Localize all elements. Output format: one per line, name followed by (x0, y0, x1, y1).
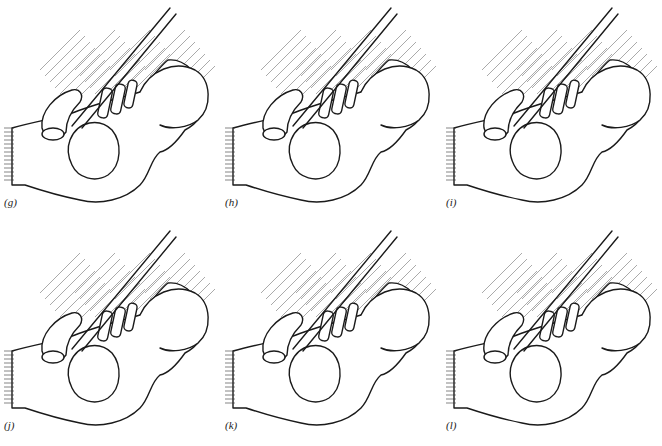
hatch-line (85, 42, 125, 82)
pelvis-illustration (221, 0, 441, 223)
hatch-line (110, 253, 150, 293)
hatch-line (517, 30, 557, 70)
anatomy-panel-i: (i) (442, 0, 662, 223)
pelvis-illustration (442, 0, 662, 223)
hatch-line (266, 36, 306, 76)
hatch-line (522, 259, 562, 299)
hatch-line (527, 265, 567, 305)
hatch-line (522, 36, 562, 76)
hatch-line (502, 277, 542, 317)
hatch-line (266, 259, 306, 299)
obturator-foramen (68, 123, 119, 179)
hatch-line (527, 42, 567, 82)
panel-label: (k) (225, 419, 237, 431)
hatch-line (552, 253, 592, 293)
pelvis-illustration (0, 223, 220, 446)
hatch-line (90, 48, 130, 88)
obturator-foramen (510, 346, 561, 402)
obturator-foramen (68, 346, 119, 402)
hatch-line (85, 265, 125, 305)
panel-label: (h) (225, 196, 238, 208)
hatch-line (517, 253, 557, 293)
cord-end (484, 351, 506, 363)
hatch-line (497, 271, 537, 311)
pelvis-illustration (442, 223, 662, 446)
hatch-line (331, 253, 371, 293)
pelvis-illustration (0, 0, 220, 223)
cord-end (263, 351, 285, 363)
panel-label: (j) (4, 419, 14, 431)
hatch-line (55, 271, 95, 311)
anatomy-panel-g: (g) (0, 0, 220, 223)
hatch-line (311, 271, 351, 311)
hatch-line (271, 265, 311, 305)
hatch-line (50, 265, 90, 305)
hatch-line (492, 42, 532, 82)
hatch-line (276, 48, 316, 88)
hatch-line (281, 54, 321, 94)
hatch-line (261, 253, 301, 293)
hatch-line (552, 30, 592, 70)
hatch-line (482, 253, 522, 293)
hatch-line (532, 271, 572, 311)
obturator-foramen (510, 123, 561, 179)
hatch-line (296, 253, 336, 293)
pelvis-illustration (221, 223, 441, 446)
hatch-line (502, 54, 542, 94)
hatch-line (50, 42, 90, 82)
hatch-line (75, 30, 115, 70)
hatch-line (45, 259, 85, 299)
hatch-line (497, 48, 537, 88)
hatch-line (110, 30, 150, 70)
hatch-line (301, 259, 341, 299)
hatch-line (75, 253, 115, 293)
panel-label: (i) (446, 196, 456, 208)
hatch-line (276, 271, 316, 311)
hatch-line (301, 36, 341, 76)
hatch-line (532, 48, 572, 88)
hatch-line (45, 36, 85, 76)
panel-label: (l) (446, 419, 456, 431)
cord-end (42, 351, 64, 363)
cord-end (263, 128, 285, 140)
hatch-line (115, 259, 155, 299)
hatch-line (80, 36, 120, 76)
anatomy-panel-h: (h) (221, 0, 441, 223)
obturator-foramen (289, 346, 340, 402)
hatch-line (60, 54, 100, 94)
hatch-line (55, 48, 95, 88)
hatch-line (331, 30, 371, 70)
hatch-line (482, 30, 522, 70)
hatch-line (80, 259, 120, 299)
hatch-line (281, 277, 321, 317)
hatch-line (261, 30, 301, 70)
hatch-line (336, 259, 376, 299)
hatch-line (115, 36, 155, 76)
hatch-line (557, 36, 597, 76)
hatch-line (40, 30, 80, 70)
hatch-line (306, 265, 346, 305)
panel-label: (g) (4, 196, 17, 208)
cord-end (42, 128, 64, 140)
obturator-foramen (289, 123, 340, 179)
hatch-line (60, 277, 100, 317)
hatch-line (311, 48, 351, 88)
hatch-line (90, 271, 130, 311)
anatomy-panel-l: (l) (442, 223, 662, 446)
hatch-line (336, 36, 376, 76)
hatch-line (306, 42, 346, 82)
hatch-line (492, 265, 532, 305)
cord-end (484, 128, 506, 140)
anatomy-panel-j: (j) (0, 223, 220, 446)
hatch-line (296, 30, 336, 70)
hatch-line (271, 42, 311, 82)
hatch-line (40, 253, 80, 293)
anatomy-panel-k: (k) (221, 223, 441, 446)
hatch-line (557, 259, 597, 299)
hatch-line (487, 36, 527, 76)
hatch-line (487, 259, 527, 299)
